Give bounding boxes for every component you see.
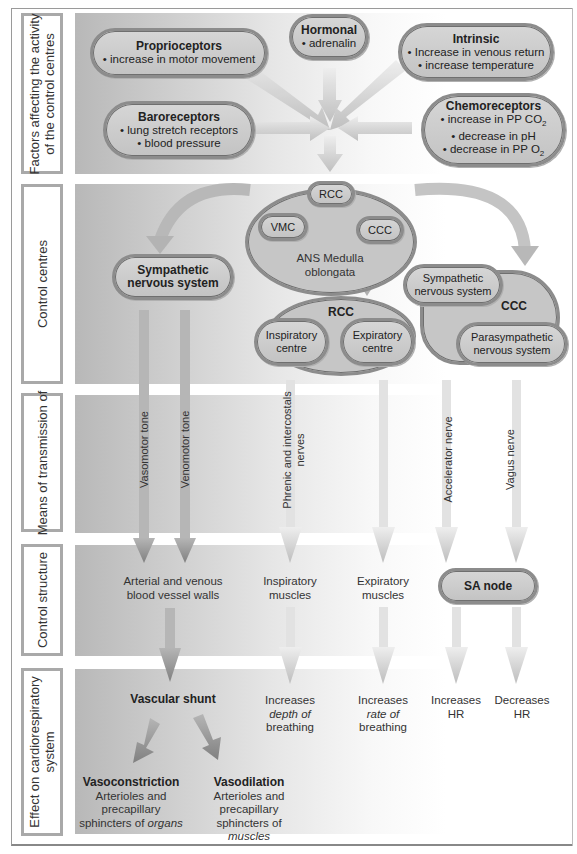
blood-vessel-walls-label: Arterial and venous blood vessel walls bbox=[108, 575, 238, 602]
subscript: 2 bbox=[542, 119, 546, 128]
vascular-shunt-label: Vascular shunt bbox=[118, 693, 228, 707]
node-item: • decrease in PP O bbox=[443, 143, 540, 155]
sa-node: SA node bbox=[438, 568, 538, 604]
increases-depth-label: Increases depth of breathing bbox=[258, 694, 322, 735]
node-item: • increase in motor movement bbox=[103, 53, 255, 66]
parasympathetic-node: Parasympathetic nervous system bbox=[456, 322, 568, 366]
vasodilation-label: Vasodilation Arterioles and precapillary… bbox=[196, 776, 302, 844]
increases-hr-label: Increases HR bbox=[424, 694, 488, 721]
ans-medulla-label: ANS Medulla oblongata bbox=[290, 252, 370, 279]
vmc-node: VMC bbox=[258, 213, 308, 241]
ccc-sympathetic-node: Sympathetic nervous system bbox=[403, 264, 503, 306]
curve-arrow-right bbox=[415, 189, 525, 250]
vagus-nerve-label: Vagus nerve bbox=[504, 425, 517, 495]
intrinsic-node: Intrinsic • Increase in venous return • … bbox=[398, 23, 554, 81]
node-title: Intrinsic bbox=[453, 33, 500, 46]
chemoreceptors-node: Chemoreceptors • increase in PP CO2 • de… bbox=[421, 93, 566, 167]
node-item: • decrease in pH bbox=[451, 130, 536, 143]
node-title: Proprioceptors bbox=[136, 40, 222, 53]
ccc-mini-node: CCC bbox=[356, 216, 404, 244]
node-item: • increase in PP CO bbox=[440, 113, 542, 125]
decreases-hr-label: Decreases HR bbox=[488, 694, 556, 721]
node-item: • Increase in venous return bbox=[408, 46, 545, 59]
node-item: • lung stretch receptors bbox=[120, 124, 238, 137]
accelerator-nerve-label: Accelerator nerve bbox=[442, 415, 455, 505]
vasomotor-tone-label: Vasomotor tone bbox=[138, 410, 151, 490]
node-title: Chemoreceptors bbox=[446, 100, 541, 113]
node-item: • blood pressure bbox=[137, 137, 220, 150]
phrenic-intercostals-label: Phrenic and intercostals nerves bbox=[281, 387, 307, 513]
rcc-mini-node: RCC bbox=[307, 181, 355, 207]
curve-arrow-left bbox=[160, 189, 250, 240]
vasoconstriction-label: Vasoconstriction Arterioles and precapil… bbox=[76, 776, 186, 830]
expiratory-muscles-label: Expiratory muscles bbox=[348, 575, 418, 602]
node-item: • increase temperature bbox=[418, 59, 534, 72]
sympathetic-nervous-system-node: Sympathetic nervous system bbox=[112, 254, 234, 300]
inspiratory-centre-node: Inspiratory centre bbox=[254, 318, 329, 366]
venomotor-tone-label: Venomotor tone bbox=[179, 410, 192, 490]
node-item: • adrenalin bbox=[302, 37, 357, 50]
node-title: Baroreceptors bbox=[138, 111, 220, 124]
increases-rate-label: Increases rate of breathing bbox=[350, 694, 416, 735]
node-title: Hormonal bbox=[301, 24, 357, 37]
subscript: 2 bbox=[540, 149, 544, 158]
proprioceptors-node: Proprioceptors • increase in motor movem… bbox=[90, 28, 268, 78]
ccc-group-title: CCC bbox=[494, 300, 534, 314]
baroreceptors-node: Baroreceptors • lung stretch receptors •… bbox=[103, 101, 255, 159]
hormonal-node: Hormonal • adrenalin bbox=[289, 14, 369, 60]
expiratory-centre-node: Expiratory centre bbox=[340, 318, 415, 366]
inspiratory-muscles-label: Inspiratory muscles bbox=[255, 575, 325, 602]
